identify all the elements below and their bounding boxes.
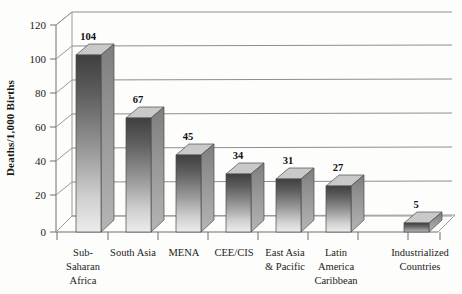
bar-data-label: 34 bbox=[233, 150, 244, 161]
y-tick-40-depth bbox=[56, 148, 72, 161]
y-tick-label-40: 40 bbox=[35, 155, 47, 167]
bar-cee-cis bbox=[226, 163, 264, 232]
bar-data-label: 27 bbox=[333, 162, 344, 173]
x-label-latin-america-line1: Latin bbox=[325, 247, 348, 258]
y-tick-80-depth bbox=[56, 80, 72, 93]
x-label-latin-america-line2: America bbox=[318, 261, 354, 272]
gridline-60 bbox=[72, 113, 452, 114]
bar-front-face bbox=[76, 55, 101, 232]
y-tick-label-0: 0 bbox=[41, 226, 47, 238]
x-label-south-asia-line1: South Asia bbox=[110, 247, 156, 258]
y-tick-label-80: 80 bbox=[35, 87, 47, 99]
y-tick-label-100: 100 bbox=[30, 53, 47, 65]
bar-sub-saharan-africa bbox=[76, 44, 114, 232]
bar-front-face bbox=[176, 155, 201, 232]
y-tick-label-120: 120 bbox=[30, 19, 47, 31]
bar-side-face bbox=[151, 107, 164, 232]
y-tick-120-depth bbox=[56, 12, 72, 25]
bar-front-face bbox=[404, 223, 429, 232]
chart-canvas: 120 100 80 60 40 20 0 Deaths/1,000 Birth… bbox=[0, 0, 462, 294]
x-axis-ticks bbox=[57, 232, 440, 240]
bar-data-label: 5 bbox=[413, 199, 418, 210]
bar-latin-america-caribbean bbox=[326, 175, 364, 232]
bar-data-label: 104 bbox=[80, 31, 97, 42]
bar-side-face bbox=[201, 144, 214, 232]
bar-south-asia bbox=[126, 107, 164, 232]
bar-side-face bbox=[101, 44, 114, 232]
y-axis: 120 100 80 60 40 20 0 bbox=[30, 12, 73, 238]
gridline-100 bbox=[72, 45, 452, 46]
bar-front-face bbox=[126, 118, 151, 232]
gridline-80 bbox=[72, 79, 452, 80]
bar-side-face bbox=[301, 168, 314, 232]
bar-front-face bbox=[226, 174, 251, 232]
bar-mena bbox=[176, 144, 214, 232]
x-label-east-asia-pacific-line2: & Pacific bbox=[265, 261, 305, 272]
x-label-industrialized-line1: Industrialized bbox=[391, 247, 449, 258]
x-label-industrialized-line2: Countries bbox=[400, 261, 441, 272]
bar-data-label: 31 bbox=[283, 155, 294, 166]
x-label-cee-cis-line1: CEE/CIS bbox=[214, 247, 253, 258]
bar-data-label: 45 bbox=[183, 131, 194, 142]
bar-data-label: 67 bbox=[133, 94, 144, 105]
y-tick-100-depth bbox=[56, 46, 72, 59]
x-axis-labels: Sub- Saharan Africa South Asia MENA CEE/… bbox=[66, 247, 450, 286]
y-axis-title: Deaths/1,000 Births bbox=[4, 79, 16, 176]
y-tick-20-depth bbox=[56, 182, 72, 195]
x-label-sub-saharan-africa-line1: Sub- bbox=[73, 247, 93, 258]
x-label-sub-saharan-africa-line3: Africa bbox=[70, 275, 97, 286]
bar-front-face bbox=[276, 179, 301, 232]
y-tick-60-depth bbox=[56, 114, 72, 127]
x-label-mena-line1: MENA bbox=[169, 247, 200, 258]
y-tick-label-20: 20 bbox=[35, 189, 47, 201]
x-label-east-asia-pacific-line1: East Asia bbox=[265, 247, 305, 258]
x-label-sub-saharan-africa-line2: Saharan bbox=[66, 261, 101, 272]
x-label-latin-america-line3: Caribbean bbox=[314, 275, 358, 286]
bar-side-face bbox=[251, 163, 264, 232]
y-tick-label-60: 60 bbox=[35, 121, 47, 133]
bar-front-face bbox=[326, 186, 351, 232]
bar-chart: 120 100 80 60 40 20 0 Deaths/1,000 Birth… bbox=[0, 0, 462, 294]
y-tick-0-depth bbox=[56, 216, 72, 232]
bar-east-asia-pacific bbox=[276, 168, 314, 232]
